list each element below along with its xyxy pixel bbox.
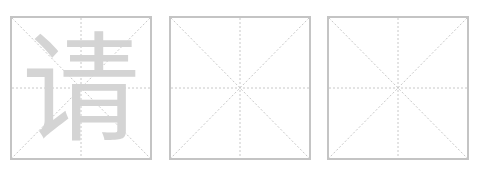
rice-grid-lines <box>171 18 309 158</box>
practice-box-3[interactable] <box>327 16 469 160</box>
guide-character: 请 <box>12 18 150 158</box>
practice-box-1: 请 <box>10 16 152 160</box>
rice-grid-lines <box>329 18 467 158</box>
practice-box-2[interactable] <box>169 16 311 160</box>
